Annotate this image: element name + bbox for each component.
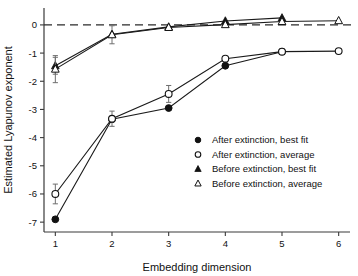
x-tick-label: 6 [336,238,341,249]
filled-triangle-icon [195,166,201,172]
filled-circle-icon [195,137,201,143]
y-tick-label: 0 [32,19,37,30]
data-point-open-triangle [335,16,343,23]
legend-entry-1: After extinction, average [195,149,314,160]
y-axis-title: Estimated Lyapunov exponent [2,46,14,194]
lyapunov-exponent-chart: 0-1-2-3-4-5-6-7 123456 After extinction,… [0,0,358,276]
data-point-open-circle [52,191,59,198]
legend-entry-0: After extinction, best fit [195,134,308,145]
data-point-filled-circle [222,62,229,69]
data-point-open-circle [222,55,229,62]
x-axis-title: Embedding dimension [143,261,252,273]
data-point-filled-circle [165,105,172,112]
legend-label: Before extinction, average [212,178,322,189]
y-tick-label: -6 [29,188,37,199]
chart-legend: After extinction, best fitAfter extincti… [195,134,323,189]
open-triangle-icon [195,180,201,186]
legend-label: Before extinction, best fit [212,163,316,174]
x-tick-label: 3 [166,238,171,249]
y-tick-label: -7 [29,217,37,228]
y-tick-label: -5 [29,160,37,171]
x-axis-ticks: 123456 [53,232,342,249]
data-point-open-circle [335,48,342,55]
legend-label: After extinction, average [212,149,314,160]
data-point-filled-circle [52,216,59,223]
y-tick-label: -1 [29,48,37,59]
legend-entry-3: Before extinction, average [195,178,323,189]
x-tick-label: 5 [279,238,284,249]
x-tick-label: 4 [223,238,228,249]
data-point-open-circle [279,48,286,55]
legend-entry-2: Before extinction, best fit [195,163,317,174]
y-tick-label: -3 [29,104,37,115]
data-point-open-circle [109,115,116,122]
y-axis-ticks: 0-1-2-3-4-5-6-7 [29,19,44,227]
legend-label: After extinction, best fit [212,134,308,145]
axes [44,8,350,232]
data-point-open-circle [165,91,172,98]
data-series-group [51,14,342,223]
y-tick-label: -4 [29,132,37,143]
chart-canvas: 0-1-2-3-4-5-6-7 123456 After extinction,… [0,0,358,276]
x-tick-label: 2 [109,238,114,249]
x-tick-label: 1 [53,238,58,249]
series-line [55,21,338,69]
open-circle-icon [195,152,201,158]
y-tick-label: -2 [29,76,37,87]
series-3 [51,16,342,82]
